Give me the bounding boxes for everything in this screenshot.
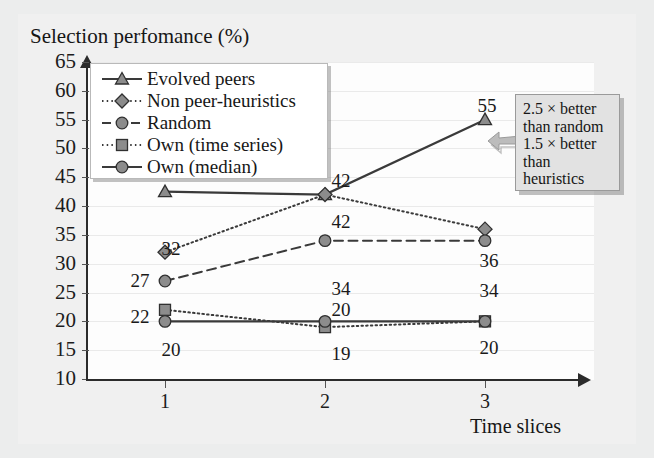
data-point-label: 20 — [318, 300, 364, 319]
y-axis-tick-label: 25 — [36, 282, 76, 303]
legend-marker-icon — [100, 69, 144, 89]
y-axis-tick-label: 10 — [36, 368, 76, 389]
x-axis-tick-label: 1 — [150, 390, 180, 413]
data-point-label: 55 — [464, 96, 510, 115]
callout-line: heuristics — [523, 170, 615, 188]
legend-label: Own (time series) — [147, 134, 283, 156]
x-axis-tick — [165, 381, 166, 388]
y-axis-tick — [82, 264, 89, 265]
callout-line: than — [523, 153, 615, 171]
data-point-label: 19 — [318, 344, 364, 363]
x-axis-tick-label: 2 — [310, 390, 340, 413]
chart-legend: Evolved peersNon peer-heuristicsRandomOw… — [90, 63, 328, 179]
y-axis-tick — [82, 148, 89, 149]
data-point-label: 27 — [117, 271, 163, 290]
legend-label: Non peer-heuristics — [147, 90, 296, 112]
y-axis-tick-label: 15 — [36, 339, 76, 360]
y-axis-tick-label: 20 — [36, 310, 76, 331]
y-axis-tick — [82, 350, 89, 351]
data-point-label: 20 — [466, 338, 512, 357]
legend-marker-icon — [100, 113, 144, 133]
gridline — [88, 206, 594, 207]
gridline — [88, 321, 594, 322]
legend-marker-icon — [100, 157, 144, 177]
y-axis-tick — [82, 177, 89, 178]
x-axis-title: Time slices — [470, 415, 561, 438]
comparison-callout: 2.5 × betterthan random1.5 × betterthanh… — [515, 94, 620, 191]
data-point-label: 36 — [466, 251, 512, 270]
legend-label: Random — [147, 112, 211, 134]
x-axis-tick — [325, 381, 326, 388]
callout-line: 2.5 × better — [523, 100, 615, 118]
y-axis-tick — [82, 62, 89, 63]
y-axis-tick — [82, 120, 89, 121]
legend-item-3[interactable]: Own (time series) — [91, 134, 327, 156]
data-point-label: 20 — [148, 340, 194, 359]
line-chart: 101520253035404550556065 123 Selection p… — [0, 0, 654, 458]
x-axis-line — [86, 379, 582, 381]
legend-item-2[interactable]: Random — [91, 112, 327, 134]
y-axis-tick-label: 50 — [36, 137, 76, 158]
data-point-label: 34 — [318, 279, 364, 298]
callout-line: 1.5 × better — [523, 135, 615, 153]
gridline — [88, 264, 594, 265]
figure-panel: 101520253035404550556065 123 Selection p… — [0, 0, 654, 458]
y-axis-tick-label: 60 — [36, 80, 76, 101]
data-point-label: 22 — [117, 307, 163, 326]
y-axis-tick — [82, 235, 89, 236]
data-point-label: 42 — [318, 212, 364, 231]
y-axis-tick-label: 40 — [36, 195, 76, 216]
y-axis-tick-label: 55 — [36, 109, 76, 130]
x-axis-arrow-icon — [578, 373, 591, 387]
y-axis-tick — [82, 321, 89, 322]
legend-marker-icon — [100, 91, 144, 111]
y-axis-tick — [82, 91, 89, 92]
data-point-label: 34 — [466, 281, 512, 300]
legend-item-1[interactable]: Non peer-heuristics — [91, 90, 327, 112]
y-axis-tick-label: 35 — [36, 224, 76, 245]
y-axis-tick-label: 45 — [36, 166, 76, 187]
x-axis-tick — [485, 381, 486, 388]
legend-marker-icon — [100, 135, 144, 155]
legend-item-4[interactable]: Own (median) — [91, 156, 327, 178]
legend-item-0[interactable]: Evolved peers — [91, 68, 327, 90]
y-axis-tick — [82, 293, 89, 294]
y-axis-tick — [82, 206, 89, 207]
y-axis-line — [86, 66, 88, 380]
gridline — [88, 235, 594, 236]
y-axis-title: Selection perfomance (%) — [30, 24, 249, 49]
data-point-label: 32 — [148, 239, 194, 258]
y-axis-tick-label: 65 — [36, 51, 76, 72]
y-axis-tick-label: 30 — [36, 253, 76, 274]
callout-line: than random — [523, 118, 615, 136]
x-axis-tick-label: 3 — [470, 390, 500, 413]
legend-label: Evolved peers — [147, 68, 255, 90]
legend-label: Own (median) — [147, 156, 257, 178]
